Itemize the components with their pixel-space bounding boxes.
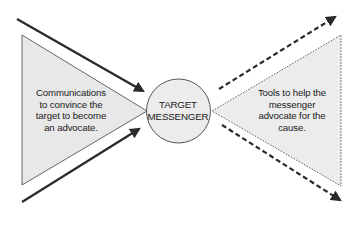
center-circle-label: TARGET MESSENGER <box>146 99 210 123</box>
left-triangle-label: Communications to convince the target to… <box>30 87 112 133</box>
right-triangle-label: Tools to help the messenger advocate for… <box>248 87 336 133</box>
